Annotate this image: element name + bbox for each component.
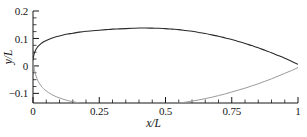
x-tick-label: 0.5 <box>159 106 172 117</box>
x-axis-title: x/L <box>146 118 161 130</box>
y-tick-label: 0.2 <box>0 6 28 17</box>
y-axis-title: y/L <box>3 50 15 65</box>
x-tick-label: 0 <box>30 106 35 117</box>
y-tick-label: 0.1 <box>0 33 28 44</box>
airfoil-profile-figure: −0.100.10.200.250.50.751 x/L y/L <box>0 0 307 137</box>
data-curves <box>33 28 298 106</box>
y-tick-label: −0.1 <box>0 88 28 99</box>
upper-surface-curve <box>33 28 298 64</box>
x-tick-label: 0.75 <box>223 106 241 117</box>
x-tick-label: 1 <box>295 106 300 117</box>
axis-lines <box>33 11 298 103</box>
x-tick-label: 0.25 <box>90 106 108 117</box>
